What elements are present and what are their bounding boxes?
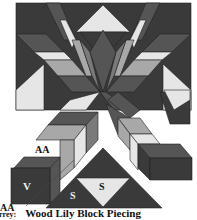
caption-title: Wood Lily Block Piecing [25,207,141,219]
figure-caption: rrey:Wood Lily Block Piecing [0,206,197,220]
label-v: V [23,180,31,192]
label-aa-top: AA [35,144,50,155]
caption-prefix: rrey: [0,210,16,219]
label-s-center: S [99,181,105,192]
label-s-left: S [70,190,76,201]
quilt-block-diagram: AA V S S AA [0,0,197,220]
